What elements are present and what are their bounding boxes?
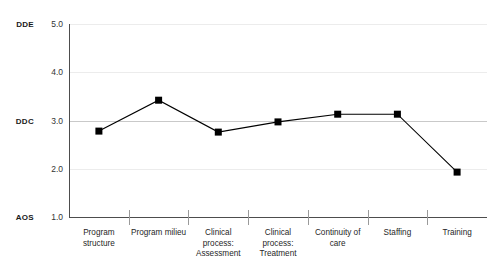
series-line (99, 100, 457, 172)
data-point-marker (95, 128, 102, 135)
data-point-marker (334, 111, 341, 118)
series-layer (0, 0, 500, 270)
data-point-marker (215, 129, 222, 136)
data-point-marker (155, 97, 162, 104)
data-point-marker (275, 118, 282, 125)
data-point-marker (394, 111, 401, 118)
data-point-marker (454, 169, 461, 176)
line-chart: DDE DDC AOS 1.02.03.04.05.0 Program stru… (0, 0, 500, 270)
